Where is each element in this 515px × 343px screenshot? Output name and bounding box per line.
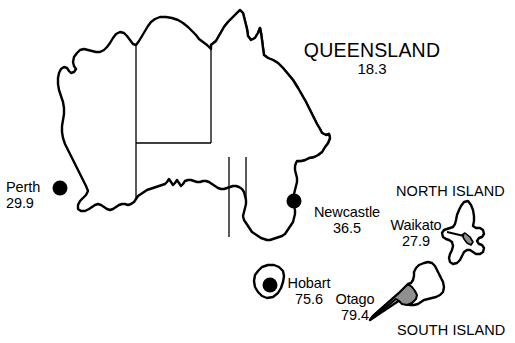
city-label-newcastle: Newcastle 36.5 xyxy=(307,205,387,236)
city-label-perth: Perth 29.9 xyxy=(6,180,66,211)
region-label-waikato-value: 27.9 xyxy=(385,234,447,250)
region-label-queensland: QUEENSLAND 18.3 xyxy=(292,40,452,77)
city-label-perth-name: Perth xyxy=(6,180,66,196)
city-label-perth-value: 29.9 xyxy=(6,196,66,212)
region-label-queensland-name: QUEENSLAND xyxy=(292,40,452,61)
city-marker-hobart[interactable] xyxy=(263,278,278,293)
map-figure: QUEENSLAND 18.3 Perth 29.9 Newcastle 36.… xyxy=(0,0,515,343)
region-label-otago-value: 79.4 xyxy=(329,308,381,324)
city-label-hobart-name: Hobart xyxy=(278,276,340,292)
landmass-label-south-island: SOUTH ISLAND xyxy=(397,323,505,339)
australia-landmass xyxy=(58,10,330,298)
region-label-waikato-name: Waikato xyxy=(385,218,447,234)
landmass-label-north-island: NORTH ISLAND xyxy=(396,184,505,200)
region-label-queensland-value: 18.3 xyxy=(292,61,452,77)
city-label-newcastle-value: 36.5 xyxy=(307,221,387,237)
region-label-otago: Otago 79.4 xyxy=(329,292,381,323)
city-marker-newcastle[interactable] xyxy=(287,194,302,209)
region-label-otago-name: Otago xyxy=(329,292,381,308)
region-label-waikato: Waikato 27.9 xyxy=(385,218,447,249)
city-label-newcastle-name: Newcastle xyxy=(307,205,387,221)
